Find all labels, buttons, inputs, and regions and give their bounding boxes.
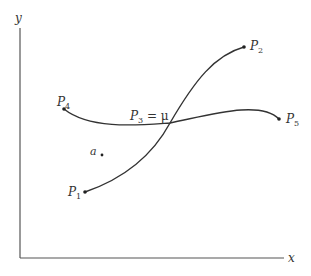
point-p1-marker <box>83 190 87 194</box>
point-p2-label: P2 <box>249 39 263 55</box>
point-p4-label: P4 <box>56 95 70 111</box>
point-p3-label: P3 = μ <box>129 109 169 125</box>
point-p2-marker <box>242 45 246 49</box>
point-p1-label: P1 <box>67 185 81 201</box>
point-a-marker <box>101 154 104 157</box>
point-a-label: a <box>90 145 97 158</box>
curve-p4-p5 <box>64 109 279 125</box>
diagram-canvas: y x P1 P2 P3 = μ P4 P5 a <box>0 0 311 276</box>
x-axis-label: x <box>288 251 295 265</box>
point-p5-marker <box>277 117 281 121</box>
y-axis-label: y <box>14 11 22 25</box>
point-p5-label: P5 <box>285 112 299 128</box>
